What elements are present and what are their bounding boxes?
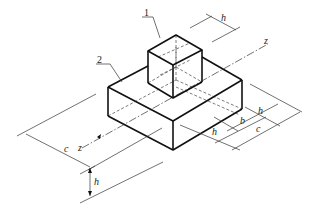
dim-right-c: c (256, 123, 261, 134)
hidden-lines (108, 35, 242, 116)
axis-z-bottom-label: z (77, 142, 82, 153)
isometric-drawing: 1 2 z z h h b c h c h (0, 0, 318, 214)
dim-front-h: h (212, 126, 217, 137)
dim-right-b: b (240, 115, 245, 126)
part-1-label: 1 (144, 7, 149, 18)
part-2-label: 2 (97, 54, 102, 65)
axis-z-top-label: z (263, 35, 268, 46)
base-block (108, 57, 242, 150)
diagram-canvas: 1 2 z z h h b c h c h (0, 0, 318, 214)
cube (148, 35, 202, 98)
dim-bottom-h: h (94, 176, 99, 187)
dim-right-h: h (258, 105, 263, 116)
dim-left-c: c (64, 143, 69, 154)
dim-top-h: h (221, 12, 226, 23)
